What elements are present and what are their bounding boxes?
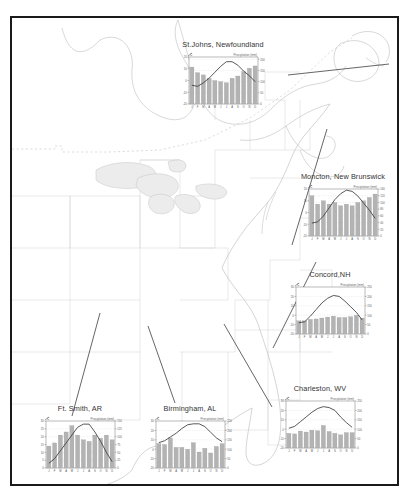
precip-bar [242, 72, 246, 104]
svg-text:O: O [100, 469, 102, 473]
svg-text:50: 50 [117, 451, 120, 455]
precip-bar [93, 435, 97, 468]
svg-text:F: F [164, 469, 166, 473]
svg-text:M: M [321, 335, 324, 339]
svg-text:Precipitation (mm): Precipitation (mm) [341, 283, 364, 287]
svg-text:25: 25 [117, 458, 120, 462]
plot-area: -20-100102030050100150200250JFMAMJJASOND… [272, 394, 368, 456]
precip-bar [99, 438, 103, 468]
precip-bar [333, 202, 337, 236]
precip-bar [180, 447, 184, 468]
svg-text:150: 150 [227, 438, 232, 442]
precip-bar [157, 444, 161, 468]
svg-text:J: J [323, 449, 325, 453]
svg-text:M: M [334, 237, 337, 241]
leader-stjohns [288, 64, 389, 75]
svg-text:Precipitation (mm): Precipitation (mm) [91, 417, 114, 421]
svg-text:Precipitation (mm): Precipitation (mm) [354, 185, 377, 189]
precip-bar [220, 444, 224, 468]
svg-text:N: N [345, 449, 347, 453]
svg-text:-10: -10 [303, 223, 307, 227]
precip-bar [203, 448, 207, 468]
svg-text:20: 20 [281, 409, 284, 413]
svg-text:-20: -20 [290, 332, 294, 336]
precip-bar [76, 435, 80, 468]
svg-text:J: J [158, 469, 160, 473]
svg-text:D: D [221, 469, 223, 473]
precip-bar [197, 452, 201, 468]
svg-text:25: 25 [41, 427, 44, 431]
precip-bar [367, 197, 371, 236]
svg-text:A: A [328, 449, 330, 453]
svg-text:M: M [71, 469, 74, 473]
precip-bar [186, 449, 190, 468]
precip-bar [168, 438, 172, 468]
svg-text:250: 250 [367, 285, 372, 289]
svg-text:10: 10 [41, 451, 44, 455]
svg-text:10: 10 [151, 438, 154, 442]
svg-text:50: 50 [357, 437, 360, 441]
svg-text:0: 0 [367, 332, 369, 336]
svg-text:M: M [181, 469, 184, 473]
svg-text:S: S [237, 105, 239, 109]
svg-text:80: 80 [380, 207, 383, 211]
svg-text:30: 30 [291, 285, 294, 289]
svg-text:J: J [48, 469, 50, 473]
svg-text:150: 150 [260, 69, 265, 73]
precip-bar [327, 204, 331, 236]
precip-bar [87, 441, 91, 468]
precip-bar [321, 201, 325, 236]
precip-bar [219, 82, 223, 104]
svg-text:A: A [88, 469, 90, 473]
svg-text:D: D [361, 335, 363, 339]
precip-bar [344, 204, 348, 236]
climograph-concord: Concord,NH -20-100102030050100150200250J… [282, 270, 378, 342]
svg-text:20: 20 [41, 435, 44, 439]
svg-text:0: 0 [117, 466, 119, 470]
precip-bar [373, 194, 377, 236]
svg-text:50: 50 [227, 457, 230, 461]
precip-bar [350, 433, 354, 448]
svg-text:M: M [202, 105, 205, 109]
leader-birmingham [148, 326, 175, 403]
svg-text:0: 0 [152, 448, 154, 452]
svg-text:100: 100 [380, 201, 385, 205]
precip-bar [70, 426, 74, 468]
svg-text:10: 10 [291, 304, 294, 308]
svg-text:M: M [214, 105, 217, 109]
svg-text:200: 200 [367, 295, 372, 299]
precip-bar [362, 201, 366, 236]
svg-text:O: O [350, 335, 352, 339]
precip-bar [321, 425, 325, 448]
svg-text:S: S [344, 335, 346, 339]
svg-text:J: J [83, 469, 85, 473]
svg-text:O: O [363, 237, 365, 241]
climograph-title: Concord,NH [282, 270, 378, 279]
svg-text:A: A [65, 469, 67, 473]
precip-bar [293, 434, 297, 448]
svg-text:M: M [59, 469, 62, 473]
svg-text:S: S [357, 237, 359, 241]
svg-text:J: J [317, 449, 319, 453]
svg-text:J: J [327, 335, 329, 339]
precip-bar [253, 66, 257, 104]
svg-text:S: S [334, 449, 336, 453]
svg-text:-10: -10 [280, 437, 284, 441]
svg-text:0: 0 [227, 466, 229, 470]
climograph-birmingham: Birmingham, AL -20-100102030050100150200… [142, 404, 238, 476]
precip-bar [316, 431, 320, 448]
svg-text:J: J [311, 237, 313, 241]
svg-text:A: A [198, 469, 200, 473]
precip-bar [308, 319, 312, 334]
svg-text:60: 60 [380, 214, 383, 218]
svg-text:N: N [215, 469, 217, 473]
svg-text:D: D [351, 449, 353, 453]
climograph-title: Ft. Smith, AR [32, 404, 128, 413]
precip-bar [303, 321, 307, 334]
precip-bar [207, 78, 211, 104]
climograph-title: Charleston, WV [272, 384, 368, 393]
precip-bar [58, 435, 62, 468]
leader-ftsmith [72, 313, 100, 416]
svg-text:250: 250 [357, 399, 362, 403]
svg-text:0: 0 [292, 314, 294, 318]
